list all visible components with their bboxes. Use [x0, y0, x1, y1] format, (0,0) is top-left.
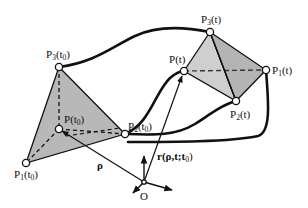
label-p3-t0: P3(t0): [46, 48, 70, 62]
node-p3-t: [206, 28, 213, 35]
trajectory-p3: [59, 28, 210, 67]
axis-x-icon: [144, 182, 172, 190]
diagram-canvas: P3(t0) P(t0) P2(t0) P1(t0) P3(t) P(t) P1…: [0, 0, 308, 208]
label-p1-t: P1(t): [272, 64, 293, 78]
label-rho: ρ: [97, 159, 103, 171]
label-r: r(ρ,t;t0): [157, 150, 193, 164]
node-p-t0: [55, 125, 62, 132]
current-tetrahedron: [184, 32, 266, 101]
node-p1-t: [262, 66, 269, 73]
node-origin: [142, 180, 146, 184]
label-p3-t: P3(t): [201, 13, 222, 27]
node-p1-t0: [22, 159, 29, 166]
label-p-t0: P(t0): [64, 113, 85, 127]
label-p-t: P(t): [169, 53, 186, 66]
node-p2-t: [232, 97, 239, 104]
node-p-t: [180, 67, 187, 74]
label-p2-t0: P2(t0): [128, 120, 152, 134]
label-origin: O: [140, 190, 148, 202]
label-p1-t0: P1(t0): [14, 168, 38, 182]
node-p3-t0: [55, 63, 62, 70]
label-p2-t: P2(t): [230, 108, 251, 122]
